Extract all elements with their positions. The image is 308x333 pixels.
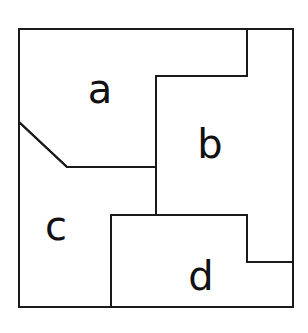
region-partition-diagram: a b c d [0,0,308,333]
region-label-d: d [188,253,213,299]
region-label-b: b [197,121,222,167]
region-label-c: c [45,203,67,249]
region-label-a: a [88,66,113,112]
